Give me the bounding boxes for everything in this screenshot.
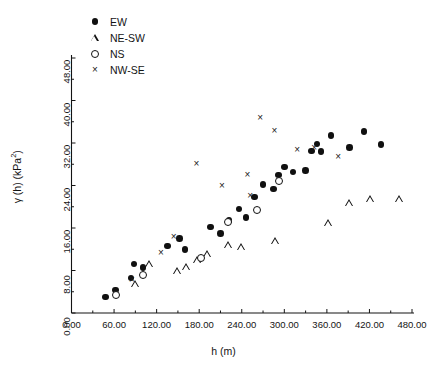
filled-circle-marker	[281, 164, 288, 171]
legend-item-ne-sw: NE-SW	[86, 30, 206, 45]
legend-item-ew: EW	[86, 14, 206, 29]
open-circle-marker	[224, 218, 232, 226]
filled-circle-marker	[207, 224, 214, 231]
open-circle-marker	[197, 254, 205, 262]
legend-label: NW-SE	[110, 63, 145, 77]
y-tick-label: 24.00	[60, 185, 71, 213]
open-triangle-marker	[173, 267, 181, 274]
y-tick-label: 48.00	[60, 58, 71, 86]
legend-item-nw-se: ×NW-SE	[86, 62, 206, 77]
y-tick-label: 16.00	[60, 228, 71, 256]
open-circle-marker	[91, 50, 99, 58]
y-tick-label: 32.00	[60, 143, 71, 171]
cross-marker: ×	[156, 248, 165, 257]
y-tick-label: 40.00	[60, 100, 71, 128]
x-tick-label: 360.00	[312, 319, 341, 330]
x-tick-label: 420.00	[355, 319, 384, 330]
filled-circle-marker	[346, 144, 353, 151]
x-axis-title: h (m)	[0, 345, 447, 357]
open-triangle-marker	[145, 260, 153, 267]
open-circle-marker	[112, 291, 120, 299]
y-axis-title-main: γ (h) (kPa	[11, 158, 23, 204]
cross-marker: ×	[127, 275, 136, 284]
legend-marker-ew	[86, 15, 104, 29]
filled-circle-marker	[182, 246, 189, 253]
open-triangle-marker	[345, 199, 353, 206]
open-triangle-marker	[366, 195, 374, 202]
cross-marker: ×	[310, 143, 319, 152]
x-tick-label: 300.00	[270, 319, 299, 330]
filled-circle-marker	[361, 128, 368, 135]
cross-marker: ×	[91, 65, 100, 74]
cross-marker: ×	[169, 232, 178, 241]
y-axis-title-tail: )	[11, 150, 23, 154]
legend-marker-ne-sw	[86, 31, 104, 45]
filled-circle-marker	[243, 214, 250, 221]
legend-marker-nw-se: ×	[86, 63, 104, 77]
y-axis-title-exponent: 2	[9, 154, 18, 158]
open-triangle-marker	[91, 34, 99, 41]
x-tick-label: 60.00	[102, 319, 126, 330]
legend-marker-ns	[86, 47, 104, 61]
filled-circle-marker	[378, 141, 385, 148]
cross-marker: ×	[192, 159, 201, 168]
open-triangle-marker	[224, 241, 232, 248]
x-tick-label: 120.00	[142, 319, 171, 330]
y-tick-label: 0.00	[60, 313, 71, 341]
filled-circle-marker	[260, 181, 267, 188]
cross-marker: ×	[243, 170, 252, 179]
cross-marker: ×	[256, 113, 265, 122]
cross-marker: ×	[246, 191, 255, 200]
cross-marker: ×	[334, 152, 343, 161]
y-axis-title: γ (h) (kPa2)	[9, 117, 23, 237]
x-tick-label: 240.00	[227, 319, 256, 330]
y-tick-label: 8.00	[60, 270, 71, 298]
x-tick-label: 480.00	[397, 319, 426, 330]
legend-label: EW	[110, 15, 127, 29]
open-triangle-marker	[271, 237, 279, 244]
filled-circle-marker	[217, 230, 224, 237]
open-triangle-marker	[237, 243, 245, 250]
open-triangle-marker	[395, 195, 403, 202]
scatter-plot-figure: ×××××××××××× 0.0060.00120.00180.00240.00…	[0, 0, 447, 373]
open-triangle-marker	[182, 263, 190, 270]
legend: EWNE-SWNS×NW-SE	[86, 14, 206, 78]
x-tick-label: 180.00	[185, 319, 214, 330]
filled-circle-marker	[302, 167, 309, 174]
cross-marker: ×	[217, 181, 226, 190]
filled-circle-marker	[102, 294, 109, 301]
open-triangle-marker	[324, 219, 332, 226]
cross-marker: ×	[293, 145, 302, 154]
legend-label: NE-SW	[110, 31, 145, 45]
legend-item-ns: NS	[86, 46, 206, 61]
cross-marker: ×	[270, 126, 279, 135]
legend-label: NS	[110, 47, 125, 61]
filled-circle-marker	[92, 18, 99, 25]
